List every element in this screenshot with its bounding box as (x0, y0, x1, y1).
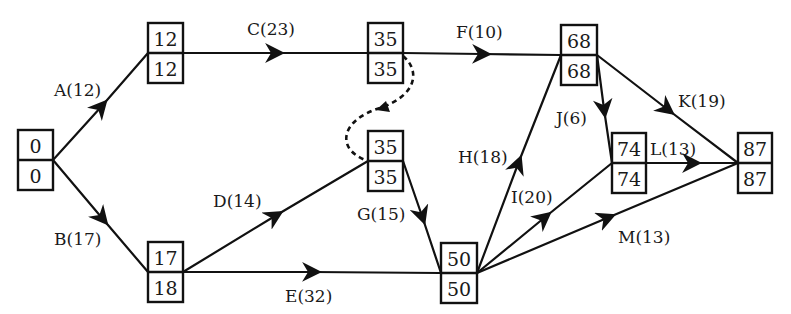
node-early-time: 35 (373, 28, 397, 50)
edge-G (403, 161, 441, 273)
edge-E (183, 272, 441, 273)
node-late-time: 87 (743, 168, 767, 190)
label-A: A(12) (53, 80, 101, 100)
node-n7: 68 68 (561, 25, 597, 85)
node-n8: 74 74 (612, 133, 646, 193)
node-n1: 0 0 (18, 130, 53, 190)
label-K: K(19) (678, 91, 726, 111)
node-late-time: 68 (567, 60, 591, 82)
label-E: E(32) (285, 286, 332, 306)
label-B: B(17) (54, 229, 101, 249)
node-late-time: 0 (29, 165, 41, 187)
node-late-time: 35 (373, 166, 397, 188)
label-G: G(15) (357, 204, 405, 224)
node-n4: 35 35 (368, 23, 403, 83)
node-early-time: 87 (743, 138, 767, 160)
label-H: H(18) (458, 147, 508, 167)
node-early-time: 74 (617, 138, 641, 160)
label-C: C(23) (247, 19, 295, 39)
node-n3: 17 18 (148, 242, 183, 302)
node-late-time: 74 (617, 168, 641, 190)
label-J: J(6) (554, 108, 587, 128)
edge-J (597, 55, 612, 163)
node-late-time: 50 (447, 278, 471, 300)
label-D: D(14) (213, 191, 262, 211)
label-I: I(20) (511, 187, 553, 207)
node-n6: 50 50 (441, 243, 477, 303)
node-late-time: 12 (153, 58, 177, 80)
node-early-time: 50 (447, 248, 471, 270)
node-n9: 87 87 (738, 133, 772, 193)
edge-M (477, 163, 738, 273)
node-early-time: 0 (29, 135, 41, 157)
node-early-time: 17 (153, 247, 177, 269)
edge-D (183, 161, 368, 272)
node-n2: 12 12 (148, 23, 183, 83)
edge-F (403, 53, 561, 55)
node-late-time: 18 (153, 277, 177, 299)
node-early-time: 12 (153, 28, 177, 50)
label-M: M(13) (618, 227, 670, 247)
label-L: L(13) (650, 139, 696, 159)
label-F: F(10) (456, 22, 503, 42)
node-late-time: 35 (373, 58, 397, 80)
dummy-arrowhead-icon (376, 101, 390, 112)
edge-B (53, 160, 148, 272)
node-early-time: 35 (373, 136, 397, 158)
node-n5: 35 35 (368, 131, 403, 191)
node-early-time: 68 (567, 30, 591, 52)
edge-A (53, 53, 148, 160)
project-network-diagram: A(12) B(17) C(23) D(14) E(32) F(10) G(15… (0, 0, 791, 314)
